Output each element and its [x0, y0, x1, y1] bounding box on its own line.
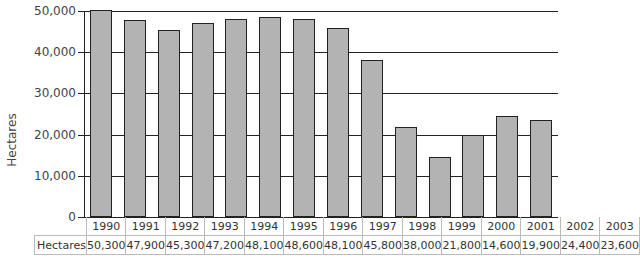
- year-header: 1990: [86, 217, 126, 236]
- bar-1993: [192, 23, 214, 217]
- gridline: [78, 52, 558, 53]
- value-cell: 23,600: [600, 236, 640, 255]
- bar-1992: [158, 30, 180, 217]
- value-cell: 48,600: [284, 236, 324, 255]
- year-header: 1994: [244, 217, 284, 236]
- y-tick-label: 50,000: [20, 4, 76, 18]
- y-tick-label: 10,000: [20, 169, 76, 183]
- y-axis-line: [84, 11, 85, 217]
- y-tick-label: 40,000: [20, 45, 76, 59]
- year-header: 1998: [402, 217, 442, 236]
- gridline: [78, 176, 558, 177]
- year-header: 1997: [363, 217, 403, 236]
- value-cell: 50,300: [86, 236, 126, 255]
- y-axis-label-text: Hectares: [5, 113, 19, 166]
- gridline: [78, 93, 558, 94]
- bar-1996: [293, 19, 315, 217]
- plot-area: [84, 11, 558, 217]
- year-header: 2002: [560, 217, 600, 236]
- bar-1998: [361, 60, 383, 217]
- year-header: 1991: [126, 217, 166, 236]
- value-cell: 47,900: [126, 236, 166, 255]
- year-header: 1999: [442, 217, 482, 236]
- year-header: 2001: [521, 217, 561, 236]
- y-tick-label: 20,000: [20, 128, 76, 142]
- year-header: 2000: [481, 217, 521, 236]
- value-cell: 48,100: [244, 236, 284, 255]
- bar-2000: [429, 157, 451, 217]
- y-axis-label: Hectares: [2, 80, 22, 200]
- year-header: 1996: [323, 217, 363, 236]
- value-cell: 45,300: [165, 236, 205, 255]
- value-cell: 19,900: [521, 236, 561, 255]
- y-tick-label: 0: [20, 210, 76, 224]
- bar-1990: [90, 10, 112, 217]
- value-cell: 47,200: [205, 236, 245, 255]
- data-table: 1990199119921993199419951996199719981999…: [34, 217, 640, 255]
- gridline: [78, 135, 558, 136]
- value-cell: 38,000: [402, 236, 442, 255]
- value-cell: 21,800: [442, 236, 482, 255]
- bar-1991: [124, 20, 146, 217]
- year-header: 1995: [284, 217, 324, 236]
- bar-1995: [259, 17, 281, 217]
- bar-1994: [225, 19, 247, 217]
- bar-2002: [496, 116, 518, 217]
- gridline: [78, 11, 558, 12]
- bar-2001: [462, 135, 484, 217]
- value-cell: 45,800: [363, 236, 403, 255]
- bar-2003: [530, 120, 552, 217]
- bar-1999: [395, 127, 417, 217]
- year-header: 2003: [600, 217, 640, 236]
- year-header: 1993: [205, 217, 245, 236]
- value-cell: 48,100: [323, 236, 363, 255]
- year-header: 1992: [165, 217, 205, 236]
- y-tick-label: 30,000: [20, 86, 76, 100]
- value-cell: 24,400: [560, 236, 600, 255]
- value-cell: 14,600: [481, 236, 521, 255]
- table-row-header: Hectares: [35, 236, 87, 255]
- bar-1997: [327, 28, 349, 217]
